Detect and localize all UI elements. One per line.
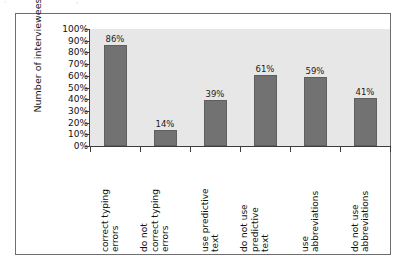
bar [354, 98, 377, 146]
y-axis-tick-mark [85, 64, 90, 65]
x-axis-tick-mark [290, 147, 291, 152]
bar-value-label: 59% [295, 66, 335, 76]
y-axis-tick-label: 80% [44, 48, 88, 57]
chart-figure-frame: Number of interviewees 0%10%20%30%40%50%… [15, 13, 391, 255]
x-axis-category-label-line: correct typing [150, 189, 161, 252]
y-axis-tick-label: 40% [44, 95, 88, 104]
y-axis-tick-labels: 0%10%20%30%40%50%60%70%80%90%100% [44, 29, 88, 146]
bar-value-label: 41% [345, 87, 385, 97]
x-axis-tick-mark [140, 147, 141, 152]
y-axis-tick-mark [85, 52, 90, 53]
x-axis-category-label-line: predictive [250, 207, 261, 252]
bar [154, 130, 177, 146]
x-axis-tick-mark [240, 147, 241, 152]
y-axis-tick-label: 20% [44, 118, 88, 127]
x-axis-tick-mark [340, 147, 341, 152]
x-axis-category-label-line: do not use [239, 204, 250, 252]
x-axis-category-label-line: use [300, 236, 311, 252]
x-axis-category-label-line: use predictive [200, 188, 211, 252]
y-axis-tick-label: 10% [44, 130, 88, 139]
x-axis-category-label-line: text [210, 234, 221, 252]
y-axis-tick-mark [85, 111, 90, 112]
y-axis-tick-mark [85, 134, 90, 135]
y-axis-tick-mark [85, 76, 90, 77]
y-axis-tick-mark [85, 123, 90, 124]
x-axis-category-label-line: errors [160, 226, 171, 252]
bar [204, 100, 227, 146]
y-axis-tick-mark [85, 99, 90, 100]
x-axis-tick-mark [90, 147, 91, 152]
x-axis-tick-mark [190, 147, 191, 152]
y-axis-tick-label: 60% [44, 71, 88, 80]
x-axis-category-label-line: abbreviations [360, 191, 371, 252]
y-axis-tick-mark [85, 29, 90, 30]
scan-artifact-right: ’ [76, 1, 78, 9]
bar [304, 77, 327, 146]
x-axis-tick-mark [390, 147, 391, 152]
y-axis-title: Number of interviewees [32, 0, 43, 121]
x-axis-category-label-line: do not use [350, 204, 361, 252]
bar [104, 45, 127, 146]
x-axis-category-label-line: abbreviations [310, 191, 321, 252]
bar-value-label: 39% [195, 89, 235, 99]
bar-value-label: 86% [95, 34, 135, 44]
bar-value-label: 61% [245, 64, 285, 74]
x-axis-category-label-line: text [260, 234, 271, 252]
x-axis-category-label-line: correct typing [100, 189, 111, 252]
y-axis-tick-label: 90% [44, 36, 88, 45]
y-axis-tick-mark [85, 88, 90, 89]
y-axis-tick-label: 70% [44, 60, 88, 69]
y-axis-tick-label: 50% [44, 83, 88, 92]
x-axis-category-label-line: errors [110, 226, 121, 252]
x-axis-category-label-line: do not [139, 223, 150, 252]
bar-value-label: 14% [145, 119, 185, 129]
y-axis-tick-label: 100% [44, 25, 88, 34]
bar [254, 75, 277, 146]
y-axis-tick-label: 0% [44, 142, 88, 151]
scan-artifact-left: ‘ [4, 0, 6, 8]
y-axis-tick-mark [85, 41, 90, 42]
y-axis-tick-label: 30% [44, 106, 88, 115]
